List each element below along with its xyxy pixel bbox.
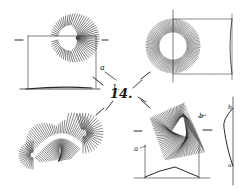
figure-14-diagram: a 1. b a b a 14. xyxy=(0,0,244,189)
label-b-side: b xyxy=(228,103,232,110)
label-a-top-left: a xyxy=(100,63,105,72)
panel-top-left xyxy=(51,14,99,62)
label-b-bottom-right: b xyxy=(199,112,204,120)
label-a-bottom-right: a xyxy=(134,145,138,153)
figure-number: 14. xyxy=(110,86,133,101)
panel-bottom-right xyxy=(150,103,204,160)
label-a-side: a xyxy=(228,161,232,168)
bl-tick xyxy=(106,101,113,110)
panel-bottom-left xyxy=(19,113,103,169)
